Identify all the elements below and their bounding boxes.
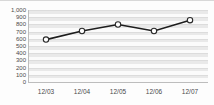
x-axis-tick-labels: 12/03 12/04 12/05 12/06 12/07 (0, 0, 214, 105)
x-tick-label: 12/03 (38, 88, 54, 95)
line-chart: 1,000 900 800 700 600 500 400 300 200 10… (0, 0, 214, 105)
x-tick-label: 12/06 (146, 88, 162, 95)
x-tick-label: 12/05 (110, 88, 126, 95)
x-tick-label: 12/04 (74, 88, 90, 95)
x-tick-label: 12/07 (182, 88, 198, 95)
